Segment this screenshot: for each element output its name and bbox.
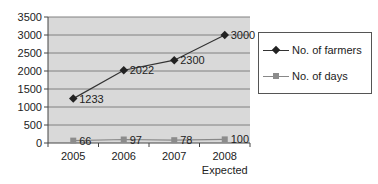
data-label: 66: [79, 135, 91, 147]
data-label: 97: [130, 134, 142, 146]
data-point: [222, 136, 228, 142]
y-tick-label: 1500: [18, 83, 42, 95]
data-label: 2022: [130, 64, 154, 76]
x-axis: 2005200620072008Expected: [48, 143, 250, 176]
y-tick-label: 0: [36, 137, 42, 149]
diamond-marker-icon: [263, 43, 289, 57]
data-point: [121, 137, 127, 143]
y-tick-label: 1000: [18, 101, 42, 113]
legend: No. of farmers No. of days: [258, 32, 372, 94]
data-point: [70, 138, 76, 144]
legend-item-farmers: No. of farmers: [263, 43, 362, 57]
x-tick-label: 2005: [61, 150, 85, 162]
x-tick-label: 2008: [213, 150, 237, 162]
data-label: 1233: [79, 93, 103, 105]
legend-label: No. of days: [292, 70, 348, 82]
y-tick-label: 3500: [18, 11, 42, 23]
y-axis: 0500100015002000250030003500: [18, 11, 48, 149]
data-label: 78: [180, 134, 192, 146]
data-label: 3000: [231, 29, 255, 41]
x-tick-label: 2007: [162, 150, 186, 162]
y-tick-label: 3000: [18, 29, 42, 41]
y-tick-label: 2500: [18, 47, 42, 59]
y-tick-label: 500: [24, 119, 42, 131]
plot-area: [48, 17, 250, 143]
plot-background: [48, 17, 250, 143]
legend-item-days: No. of days: [263, 69, 348, 83]
data-point: [171, 137, 177, 143]
data-label: 2300: [180, 54, 204, 66]
data-label: 100: [231, 133, 249, 145]
x-tick-label: 2006: [112, 150, 136, 162]
square-marker-icon: [263, 69, 289, 83]
legend-label: No. of farmers: [292, 44, 362, 56]
y-tick-label: 2000: [18, 65, 42, 77]
x-tick-sublabel: Expected: [202, 164, 248, 176]
